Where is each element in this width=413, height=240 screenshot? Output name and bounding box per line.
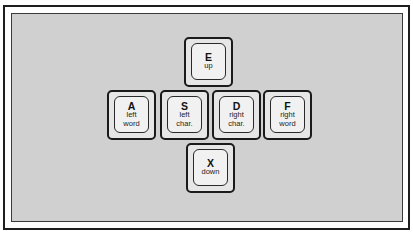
key-face: E up	[191, 43, 226, 80]
key-face: A left word	[114, 96, 149, 133]
key-x: X down	[186, 143, 235, 193]
key-label: word	[123, 120, 139, 129]
key-d: D right char.	[212, 90, 261, 140]
key-face: F right word	[270, 96, 305, 133]
key-label: word	[279, 120, 295, 129]
key-label: up	[204, 62, 212, 71]
key-face: X down	[193, 149, 228, 186]
key-label: char.	[228, 120, 244, 129]
key-a: A left word	[107, 90, 156, 140]
key-face: D right char.	[219, 96, 254, 133]
key-s: S left char.	[160, 90, 209, 140]
key-face: S left char.	[167, 96, 202, 133]
key-label: down	[202, 168, 220, 177]
key-f: F right word	[263, 90, 312, 140]
key-e: E up	[184, 37, 233, 87]
key-label: char.	[176, 120, 192, 129]
